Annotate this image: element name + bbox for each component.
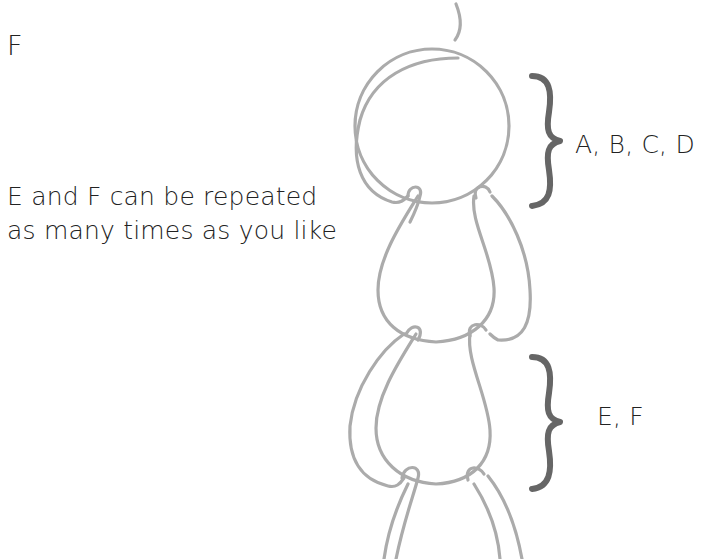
junction-1 bbox=[408, 186, 490, 222]
top-ring bbox=[355, 4, 509, 203]
repeat-note-line-1: E and F can be repeated bbox=[7, 180, 337, 214]
step-label-f: F bbox=[7, 30, 23, 61]
brace-label-ef: E, F bbox=[597, 402, 644, 431]
repeat-note: E and F can be repeated as many times as… bbox=[7, 180, 337, 248]
second-ring bbox=[378, 196, 530, 342]
junction-3 bbox=[396, 468, 484, 559]
brace-top bbox=[532, 76, 560, 206]
brace-label-abcd: A, B, C, D bbox=[575, 130, 695, 159]
repeat-note-line-2: as many times as you like bbox=[7, 214, 337, 248]
chain-illustration bbox=[0, 0, 710, 559]
third-ring bbox=[350, 334, 490, 487]
brace-bottom bbox=[532, 357, 560, 489]
